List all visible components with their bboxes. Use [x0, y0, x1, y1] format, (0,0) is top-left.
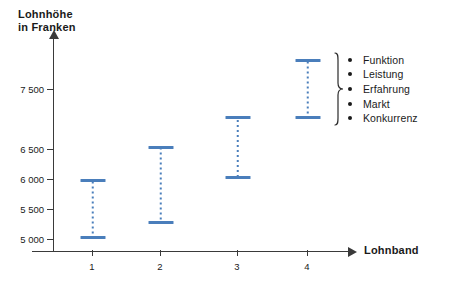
y-axis-tick: [47, 179, 54, 180]
range-bar-max-cap: [80, 179, 105, 182]
legend-item: Leistung: [348, 67, 418, 82]
legend-item: Konkurrenz: [348, 111, 418, 126]
legend-brace-icon: [332, 52, 345, 126]
range-bar: [80, 179, 105, 239]
legend-item-label: Konkurrenz: [363, 112, 418, 124]
legend-item-label: Leistung: [363, 68, 404, 80]
range-bar-min-cap: [148, 221, 173, 224]
y-axis-tick-label: 6 000: [20, 174, 44, 185]
legend-item: Markt: [348, 96, 418, 111]
legend-item-label: Funktion: [363, 54, 404, 66]
y-axis-tick-label: 5 000: [20, 234, 44, 245]
x-axis-tick-label: 4: [304, 261, 309, 272]
chart-container: Lohnhöhe in Franken Lohnband 7 5006 5006…: [0, 0, 449, 289]
bullet-icon: [348, 58, 352, 62]
x-axis-tick-label: 2: [157, 261, 162, 272]
bullet-icon: [348, 87, 352, 91]
legend-item: Erfahrung: [348, 82, 418, 97]
range-bar-stem: [236, 116, 239, 179]
x-axis-tick: [237, 250, 238, 256]
legend-item: Funktion: [348, 53, 418, 68]
range-bar-min-cap: [80, 236, 105, 239]
x-axis-tick: [160, 250, 161, 256]
range-bar: [148, 146, 173, 224]
y-axis-title-line-2: in Franken: [18, 21, 76, 34]
x-axis-tick: [92, 250, 93, 256]
bullet-icon: [348, 72, 352, 76]
y-axis-tick: [47, 239, 54, 240]
range-bar-max-cap: [148, 146, 173, 149]
range-bar-stem: [91, 179, 94, 239]
x-axis-tick: [307, 250, 308, 256]
legend-item-label: Markt: [363, 98, 390, 110]
x-axis-title: Lohnband: [364, 244, 419, 256]
y-axis-tick-label: 7 500: [20, 84, 44, 95]
y-axis-title-line-1: Lohnhöhe: [18, 8, 76, 21]
range-bar-stem: [159, 146, 162, 224]
range-bar-min-cap: [295, 116, 320, 119]
y-axis-title: Lohnhöhe in Franken: [18, 8, 76, 34]
legend-list: FunktionLeistungErfahrungMarktKonkurrenz: [348, 53, 418, 126]
x-axis-tick-label: 1: [89, 261, 94, 272]
range-bar: [225, 116, 250, 179]
y-axis-tick-label: 6 500: [20, 144, 44, 155]
y-axis-tick: [47, 209, 54, 210]
range-bar-min-cap: [225, 176, 250, 179]
range-bar: [295, 59, 320, 119]
legend: FunktionLeistungErfahrungMarktKonkurrenz: [332, 52, 418, 126]
y-axis-tick: [47, 149, 54, 150]
bullet-icon: [348, 116, 352, 120]
legend-item-label: Erfahrung: [363, 83, 410, 95]
range-bar-stem: [306, 59, 309, 119]
x-axis-line: [32, 251, 349, 252]
y-axis-tick: [47, 89, 54, 90]
range-bar-max-cap: [295, 59, 320, 62]
y-axis-tick-label: 5 500: [20, 204, 44, 215]
x-axis-arrow-icon: [348, 247, 357, 257]
range-bar-max-cap: [225, 116, 250, 119]
x-axis-tick-label: 3: [234, 261, 239, 272]
y-axis-line: [53, 38, 54, 251]
bullet-icon: [348, 102, 352, 106]
